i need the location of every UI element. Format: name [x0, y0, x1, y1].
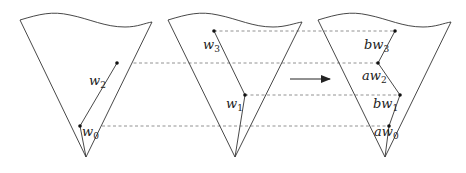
cone-diagram: w2 w0 w3 w1 bw3 aw2 bw1 aw0	[0, 0, 466, 173]
diagram-svg: w2 w0 w3 w1 bw3 aw2 bw1 aw0	[0, 0, 466, 173]
point-bw1	[398, 93, 402, 97]
label-w3: w3	[203, 37, 220, 54]
point-w2	[115, 61, 119, 65]
point-aw2	[376, 61, 380, 65]
label-w1: w1	[226, 96, 243, 113]
label-bw3: bw3	[364, 37, 389, 54]
point-bw3	[393, 29, 397, 33]
point-w1	[243, 93, 247, 97]
label-aw0: aw0	[374, 124, 399, 141]
label-bw1: bw1	[373, 96, 398, 113]
cone-middle	[168, 13, 302, 157]
point-w3	[212, 29, 216, 33]
cone-outline	[168, 13, 302, 157]
